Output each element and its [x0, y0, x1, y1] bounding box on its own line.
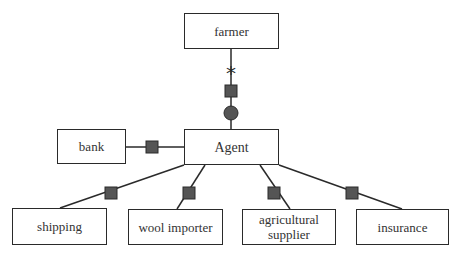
- node-bank: bank: [57, 129, 126, 164]
- connector-circle-agent: [224, 106, 238, 120]
- node-shipping: shipping: [12, 208, 107, 245]
- connector-square-farmer: [225, 85, 237, 97]
- connector-square-shipping: [105, 187, 117, 199]
- node-label: agricultural supplier: [251, 212, 327, 242]
- node-label: shipping: [37, 219, 82, 234]
- edge-agent-shipping: [60, 165, 184, 208]
- node-farmer: farmer: [184, 13, 279, 49]
- node-agent: Agent: [184, 129, 279, 165]
- node-label: Agent: [214, 140, 248, 155]
- connector-square-bank: [146, 141, 158, 153]
- connector-square-wool-importer: [183, 187, 195, 199]
- connector-square-insurance: [346, 187, 358, 199]
- node-label: bank: [79, 139, 104, 154]
- multiplicity-label: *: [226, 61, 236, 85]
- node-label: farmer: [214, 24, 249, 39]
- node-insurance: insurance: [356, 209, 449, 245]
- node-label: wool importer: [138, 220, 212, 235]
- node-wool-importer: wool importer: [128, 209, 223, 245]
- node-label: insurance: [378, 220, 428, 235]
- connector-square-agricultural-supplier: [268, 187, 280, 199]
- node-agricultural-supplier: agricultural supplier: [242, 209, 336, 245]
- edge-agent-insurance: [279, 165, 402, 209]
